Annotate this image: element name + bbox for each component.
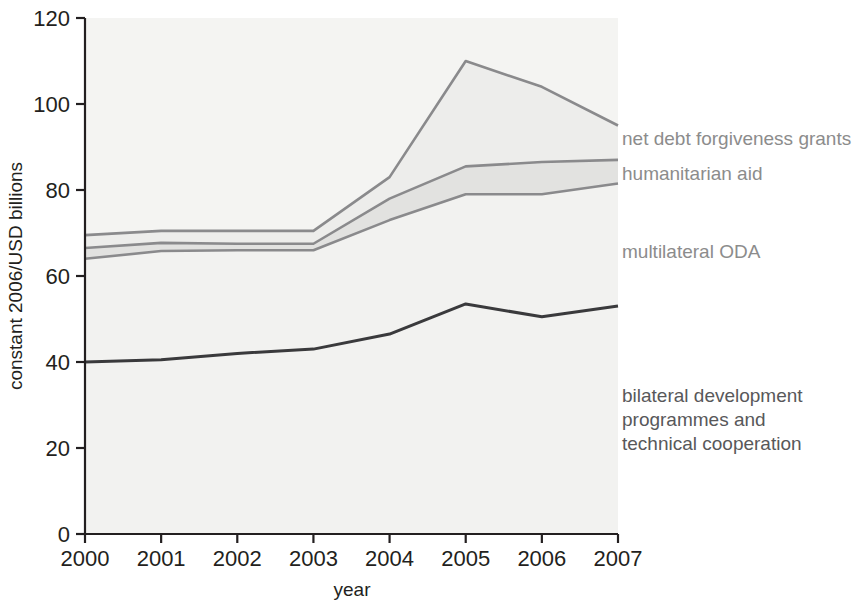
y-axis-tick-label-80: 80 — [46, 178, 70, 203]
stacked-area-chart: 020406080100120 200020012002200320042005… — [0, 0, 866, 609]
series-annotation-multilateral-oda: multilateral ODA — [622, 241, 761, 262]
y-axis-ticks — [76, 18, 85, 534]
series-annotation-humanitarian-aid: humanitarian aid — [622, 163, 762, 184]
series-annotation-bilateral-development-line1: bilateral development — [622, 385, 803, 406]
y-axis-tick-label-40: 40 — [46, 350, 70, 375]
x-axis-tick-label-2004: 2004 — [365, 546, 414, 571]
y-axis-title: constant 2006/USD billions — [5, 162, 26, 390]
x-axis-tick-label-2007: 2007 — [594, 546, 643, 571]
x-axis-title: year — [334, 579, 372, 600]
x-axis-tick-labels: 20002001200220032004200520062007 — [61, 546, 643, 571]
y-axis-tick-label-120: 120 — [33, 6, 70, 31]
series-annotation-bilateral-development-line3: technical cooperation — [622, 433, 802, 454]
chart-canvas: 020406080100120 200020012002200320042005… — [0, 0, 866, 609]
x-axis-tick-label-2006: 2006 — [517, 546, 566, 571]
series-annotation-net-debt-forgiveness-grants: net debt forgiveness grants — [622, 128, 851, 149]
x-axis-tick-label-2005: 2005 — [441, 546, 490, 571]
y-axis-tick-label-60: 60 — [46, 264, 70, 289]
y-axis-tick-label-0: 0 — [58, 522, 70, 547]
y-axis-tick-labels: 020406080100120 — [33, 6, 70, 547]
y-axis-tick-label-20: 20 — [46, 436, 70, 461]
y-axis-tick-label-100: 100 — [33, 92, 70, 117]
x-axis-tick-label-2002: 2002 — [213, 546, 262, 571]
x-axis-tick-label-2003: 2003 — [289, 546, 338, 571]
x-axis-ticks — [85, 534, 618, 543]
series-annotation-bilateral-development-line2: programmes and — [622, 409, 766, 430]
x-axis-tick-label-2000: 2000 — [61, 546, 110, 571]
x-axis-tick-label-2001: 2001 — [137, 546, 186, 571]
